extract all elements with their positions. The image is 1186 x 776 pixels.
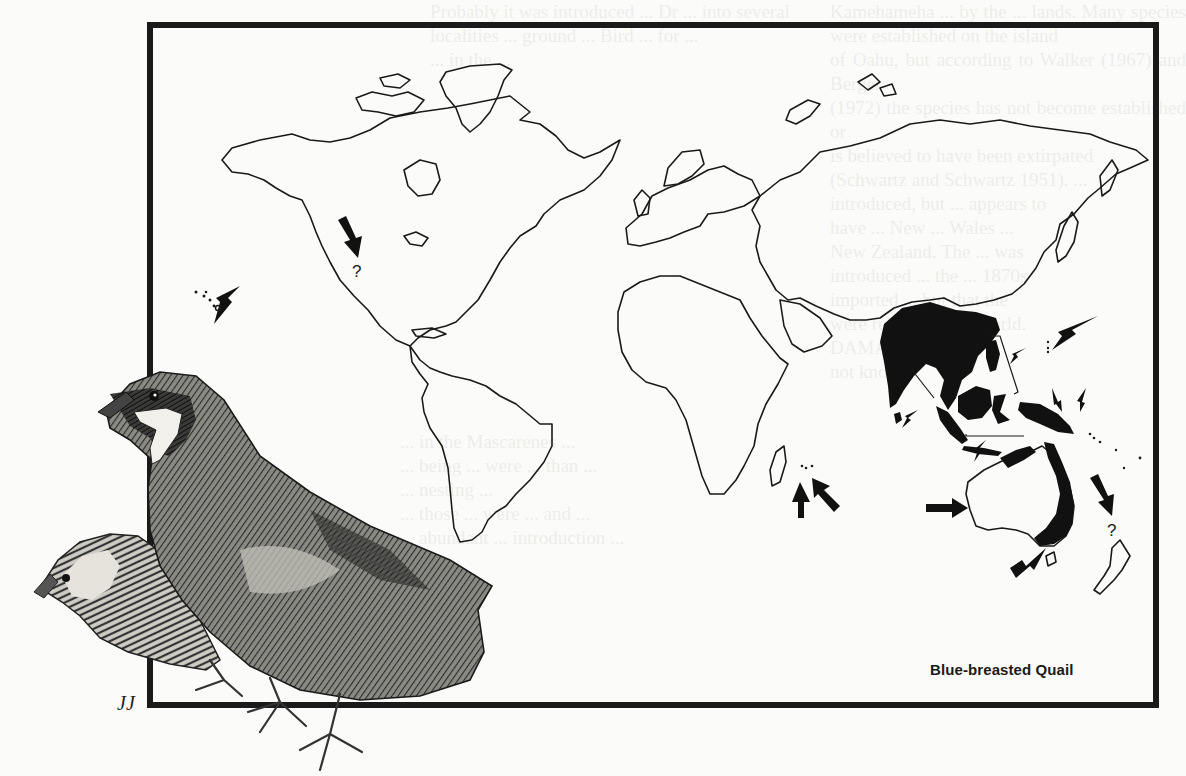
continent-africa: [618, 276, 788, 494]
landmass-kamchatka: [1100, 160, 1118, 196]
range-sulawesi: [992, 394, 1010, 424]
arrow-icon-sw-australia: [926, 498, 968, 518]
quail-illustration: [0, 360, 520, 776]
arrow-icon-north-america: [338, 216, 362, 258]
arrow-icon-bismarck-2: [1077, 388, 1086, 412]
arrow-icon-reunion: [792, 482, 810, 518]
native-range: [880, 302, 1074, 546]
artist-signature: JJ: [117, 692, 135, 715]
landmass-tasmania: [1046, 552, 1056, 566]
range-new-guinea: [1018, 402, 1074, 434]
range-java: [962, 446, 1002, 456]
landmass-arabia: [780, 300, 832, 352]
landmass-japan: [1056, 212, 1078, 262]
landmass-arctic-islands: [356, 74, 424, 116]
range-australia-north: [1000, 446, 1036, 468]
arrow-icon-philippines: [1010, 348, 1026, 364]
figure-caption: Blue-breasted Quail: [930, 661, 1074, 678]
arrow-icon-se-australia: [1010, 548, 1046, 578]
landmass-caribbean: [412, 328, 446, 338]
range-australia-east: [1034, 442, 1074, 546]
range-borneo: [958, 386, 992, 420]
range-sri-lanka: [894, 412, 902, 424]
continent-north-america: [222, 96, 620, 346]
uncertain-marker-north-america: ?: [352, 262, 361, 281]
arrow-icon-mauritius: [812, 478, 840, 512]
uncertain-marker-new-zealand: ?: [1107, 521, 1116, 540]
continent-asia: [752, 120, 1148, 320]
landmass-novaya-zemlya: [786, 74, 896, 124]
landmass-new-zealand: [1094, 540, 1130, 594]
arrow-icon-bismarck-1: [1052, 388, 1062, 412]
arrow-icon-new-zealand: [1090, 474, 1114, 516]
landmass-madagascar: [770, 446, 786, 486]
continent-europe: [626, 166, 760, 246]
landmass-scandinavia: [664, 150, 704, 186]
arrow-icon-guam: [1052, 316, 1098, 350]
hudson-bay: [404, 160, 440, 196]
arrow-icon-java-west: [902, 410, 918, 428]
range-philippines: [986, 340, 1000, 372]
great-lakes: [404, 232, 428, 246]
